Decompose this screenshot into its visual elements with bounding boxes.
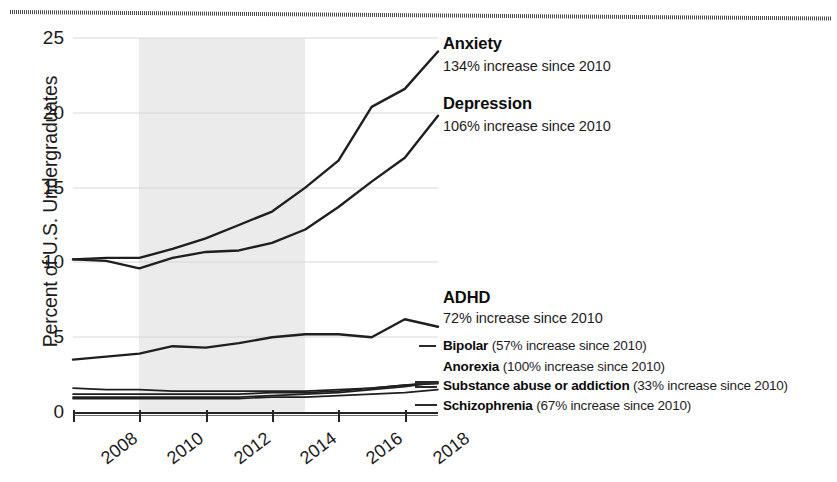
y-tick-label-25: 25	[43, 27, 64, 49]
y-axis-title: Percent of U.S. Undergraduates	[39, 12, 62, 412]
annotation-adhd-title: ADHD	[443, 288, 490, 307]
x-tick-label-2012: 2012	[230, 428, 275, 469]
series-line-depression	[73, 116, 438, 269]
x-tick-label-2014: 2014	[296, 428, 341, 469]
series-line-anxiety	[73, 51, 438, 259]
annotation-substance-sub: (33% increase since 2010)	[633, 378, 788, 393]
x-tick-mark-2014	[272, 410, 274, 422]
annotation-bipolar: Bipolar (57% increase since 2010)	[443, 338, 647, 353]
x-tick-mark-2010	[139, 410, 141, 422]
x-tick-label-2010: 2010	[163, 428, 208, 469]
annotation-anorexia-name: Anorexia	[443, 359, 499, 374]
legend-swatch-substance	[415, 381, 437, 384]
x-tick-mark-2018	[405, 410, 407, 422]
annotation-anorexia: Anorexia (100% increase since 2010)	[443, 359, 665, 374]
annotation-bipolar-sub: (57% increase since 2010)	[492, 338, 647, 353]
x-tick-mark-2008	[73, 410, 75, 422]
series-line-adhd	[73, 319, 438, 359]
annotation-adhd-sub: 72% increase since 2010	[443, 310, 603, 326]
annotation-schizophrenia-sub: (67% increase since 2010)	[536, 398, 691, 413]
annotation-depression-title: Depression	[443, 94, 532, 113]
annotation-substance: Substance abuse or addiction (33% increa…	[443, 378, 788, 393]
x-axis-line	[73, 412, 438, 414]
x-tick-label-2018: 2018	[429, 428, 474, 469]
series-line-substance-abuse-or-addiction	[73, 382, 438, 391]
legend-swatch-substance-2	[415, 386, 437, 388]
y-tick-label-5: 5	[53, 326, 64, 348]
legend-swatch-bipolar	[419, 345, 436, 347]
plot-area: 2520151050 200820102012201420162018	[73, 38, 438, 412]
page-top-rule	[10, 10, 832, 20]
x-tick-label-2008: 2008	[97, 428, 142, 469]
annotation-schizophrenia-name: Schizophrenia	[443, 398, 533, 413]
chart-figure: . . Percent of U.S. Undergraduates 25201…	[0, 0, 837, 482]
annotation-anxiety-sub: 134% increase since 2010	[443, 58, 611, 74]
annotation-anorexia-sub: (100% increase since 2010)	[503, 359, 665, 374]
legend-swatch-schizophrenia	[415, 404, 437, 406]
x-tick-label-2016: 2016	[363, 428, 408, 469]
y-tick-label-20: 20	[43, 102, 64, 124]
annotation-anxiety-title: Anxiety	[443, 34, 502, 53]
cropped-title-remnant: . .	[300, 0, 520, 8]
annotation-bipolar-name: Bipolar	[443, 338, 488, 353]
y-tick-label-15: 15	[43, 177, 64, 199]
annotation-schizophrenia: Schizophrenia (67% increase since 2010)	[443, 398, 691, 413]
x-tick-mark-2016	[338, 410, 340, 422]
y-tick-label-10: 10	[43, 251, 64, 273]
x-tick-mark-2012	[206, 410, 208, 422]
y-tick-label-0: 0	[53, 401, 64, 423]
x-axis-line-secondary	[73, 415, 438, 416]
annotation-substance-name: Substance abuse or addiction	[443, 378, 629, 393]
series-lines	[73, 38, 438, 412]
annotation-depression-sub: 106% increase since 2010	[443, 118, 611, 134]
